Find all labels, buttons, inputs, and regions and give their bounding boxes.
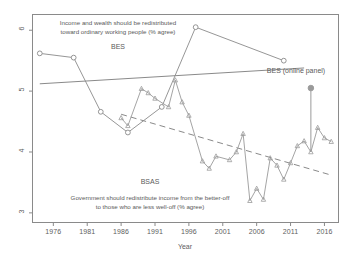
plot-frame bbox=[33, 15, 339, 223]
data-point-marker bbox=[125, 130, 130, 135]
bes-question-line2: toward ordinary working people (% agree) bbox=[60, 27, 176, 36]
bsas-question-line2: to those who are less well-off (% agree) bbox=[71, 202, 230, 211]
y-tick-label: 3 bbox=[18, 205, 25, 217]
x-axis-title: Year bbox=[178, 243, 192, 250]
trend-lines bbox=[40, 68, 331, 175]
y-tick-label: 5 bbox=[18, 84, 25, 96]
data-point-marker bbox=[37, 51, 42, 56]
data-point-marker bbox=[98, 109, 103, 114]
data-point-marker bbox=[281, 58, 286, 63]
bes-question-line1: Income and wealth should be redistribute… bbox=[60, 18, 176, 27]
data-point-marker bbox=[308, 85, 314, 91]
y-tick-label: 4 bbox=[18, 144, 25, 156]
x-tick-label: 1991 bbox=[147, 228, 163, 235]
plot-area bbox=[0, 0, 357, 259]
x-tick-label: 1996 bbox=[181, 228, 197, 235]
data-point-marker bbox=[119, 115, 123, 119]
x-tick-label: 2011 bbox=[283, 228, 298, 235]
data-point-marker bbox=[193, 25, 198, 30]
series-bes bbox=[37, 25, 286, 135]
x-tick-label: 1981 bbox=[79, 228, 95, 235]
data-series bbox=[37, 25, 333, 203]
data-point-marker bbox=[159, 105, 164, 110]
x-tick-label: 1976 bbox=[45, 228, 61, 235]
bes-series-label: BES bbox=[111, 43, 125, 50]
redistribution-attitudes-chart: 197619811986199119962001200620112016 345… bbox=[0, 0, 357, 259]
bsas-series-label: BSAS bbox=[141, 178, 160, 185]
x-tick-label: 1986 bbox=[113, 228, 129, 235]
data-point-marker bbox=[71, 55, 76, 60]
y-tick-label: 6 bbox=[18, 23, 25, 35]
x-tick-label: 2016 bbox=[316, 228, 332, 235]
x-tick-label: 2006 bbox=[249, 228, 265, 235]
bes-online-series-label: BES (online panel) bbox=[267, 67, 325, 74]
trend-line bbox=[40, 68, 304, 84]
series-bes-online-panel bbox=[308, 85, 314, 91]
series-line bbox=[40, 27, 284, 132]
bsas-question-line1: Government should redistribute income fr… bbox=[71, 193, 230, 202]
x-tick-label: 2001 bbox=[215, 228, 231, 235]
bsas-question-annotation: Government should redistribute income fr… bbox=[71, 193, 230, 211]
bes-question-annotation: Income and wealth should be redistribute… bbox=[60, 18, 176, 36]
